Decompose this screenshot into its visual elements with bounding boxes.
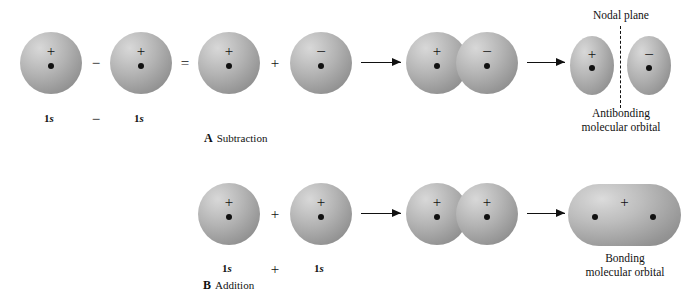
- arrow-head: [392, 58, 401, 66]
- arrow-head: [556, 209, 565, 217]
- label-b-operator: +: [267, 262, 283, 277]
- nucleus-a-overlap-right: [484, 63, 490, 69]
- orbital-a-overlap-right: −: [456, 32, 518, 94]
- orbital-b-atom1: +: [198, 183, 260, 245]
- panel-a-tag: ASubtraction: [204, 131, 267, 145]
- panel-b-tag: BAddition: [203, 278, 254, 292]
- orbital-sign-b-overlap-right: +: [456, 195, 518, 210]
- arrow-b-2: [527, 209, 565, 218]
- nucleus-a-expanded-left: [226, 63, 232, 69]
- nucleus-a-expanded-right: [318, 63, 324, 69]
- antibonding-caption-line1: Antibonding: [571, 107, 671, 121]
- orbital-sign-a-expanded-right: −: [290, 43, 352, 60]
- bonding-caption-line1: Bonding: [574, 252, 676, 266]
- orbital-a-expanded-right: −: [290, 32, 352, 94]
- label-b-1s-left: 1s: [222, 262, 232, 275]
- nucleus-a-result-left: [589, 65, 595, 71]
- operator-a-equals: =: [177, 56, 193, 71]
- operator-a-plus: +: [267, 56, 283, 71]
- label-a-operator: −: [88, 112, 104, 127]
- bonding-caption-line2: molecular orbital: [574, 266, 676, 280]
- panel-b-letter: B: [203, 278, 211, 292]
- orbital-sign-b-atom1: +: [198, 195, 260, 210]
- panel-b-label: Addition: [211, 279, 254, 291]
- nodal-plane-label: Nodal plane: [576, 9, 666, 23]
- panel-a-label: Subtraction: [213, 132, 268, 144]
- nucleus-b-atom1: [226, 214, 232, 220]
- orbital-a-result-right: −: [627, 36, 671, 95]
- orbital-b-atom2: +: [290, 183, 352, 245]
- orbital-sign-a-expanded-left: +: [198, 44, 260, 59]
- label-b-1s-right: 1s: [314, 262, 324, 275]
- antibonding-caption-line2: molecular orbital: [571, 121, 671, 135]
- nucleus-a-atom2: [138, 63, 144, 69]
- orbital-a-atom2: +: [110, 32, 172, 94]
- arrow-head: [556, 58, 565, 66]
- panel-a-letter: A: [204, 131, 213, 145]
- arrow-head: [392, 209, 401, 217]
- nucleus-a-overlap-left: [434, 63, 440, 69]
- arrow-a-1: [361, 58, 401, 67]
- arrow-a-2: [527, 58, 565, 67]
- orbital-a-result-left: +: [570, 36, 614, 95]
- orbital-sign-a-overlap-right: −: [456, 43, 518, 60]
- nucleus-b-result-left: [592, 214, 598, 220]
- nucleus-b-overlap-left: [434, 214, 440, 220]
- nucleus-b-result-right: [650, 214, 656, 220]
- orbital-sign-a-atom2: +: [110, 44, 172, 59]
- nucleus-b-overlap-right: [484, 214, 490, 220]
- operator-a-minus: −: [88, 56, 104, 71]
- orbital-sign-a-result-left: +: [570, 47, 614, 62]
- figure-canvas: + − + = + + − + − Nodal plane: [0, 0, 692, 297]
- nodal-plane-line: [620, 26, 621, 108]
- orbital-sign-b-atom2: +: [290, 195, 352, 210]
- operator-b-plus: +: [267, 207, 283, 222]
- orbital-sign-a-atom1: +: [20, 44, 82, 59]
- nucleus-a-atom1: [48, 63, 54, 69]
- orbital-a-expanded-left: +: [198, 32, 260, 94]
- orbital-b-result: +: [568, 184, 681, 246]
- orbital-b-overlap-right: +: [456, 183, 518, 245]
- label-a-1s-left: 1s: [44, 112, 54, 125]
- label-a-1s-right: 1s: [134, 112, 144, 125]
- nucleus-b-atom2: [318, 214, 324, 220]
- orbital-a-atom1: +: [20, 32, 82, 94]
- nucleus-a-result-right: [646, 65, 652, 71]
- orbital-sign-a-result-right: −: [627, 46, 671, 63]
- orbital-sign-b-result: +: [568, 195, 681, 210]
- arrow-b-1: [361, 209, 401, 218]
